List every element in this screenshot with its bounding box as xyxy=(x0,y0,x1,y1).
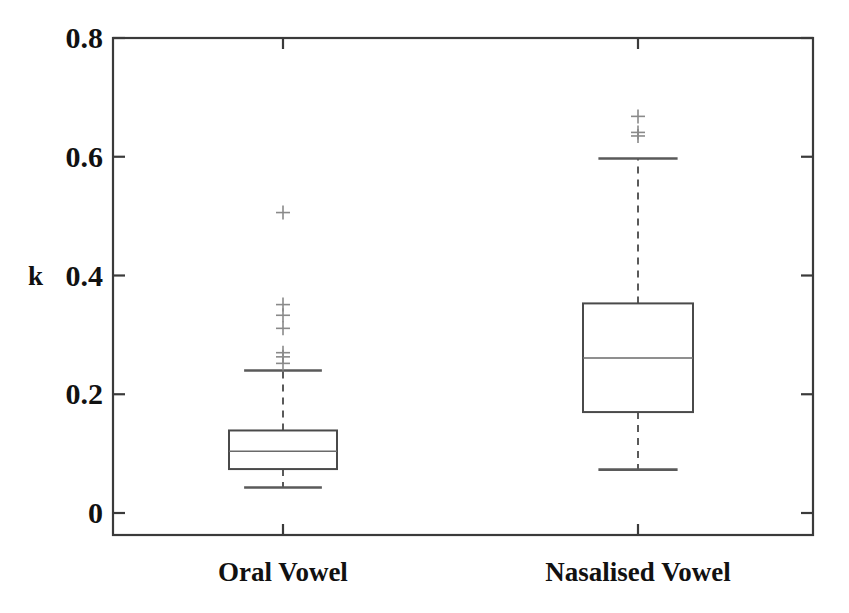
y-tick-label-2: 0.4 xyxy=(66,259,104,293)
box-0 xyxy=(229,430,337,469)
outlier-1-2 xyxy=(631,109,645,123)
x-tick-label-1: Nasalised Vowel xyxy=(545,557,730,588)
y-tick-label-4: 0.8 xyxy=(66,21,104,55)
outlier-0-6 xyxy=(276,206,290,220)
outlier-0-3 xyxy=(276,321,290,335)
y-tick-label-1: 0.2 xyxy=(66,377,104,411)
outlier-0-5 xyxy=(276,298,290,312)
outlier-1-1 xyxy=(631,125,645,139)
box-plot-chart xyxy=(0,0,849,613)
y-tick-label-3: 0.6 xyxy=(66,140,104,174)
plot-frame xyxy=(113,38,813,535)
x-tick-label-0: Oral Vowel xyxy=(218,557,348,588)
figure-canvas: 00.20.40.60.8kOral VowelNasalised Vowel xyxy=(0,0,849,613)
y-axis-title: k xyxy=(28,260,43,291)
y-tick-label-0: 0 xyxy=(88,496,103,530)
